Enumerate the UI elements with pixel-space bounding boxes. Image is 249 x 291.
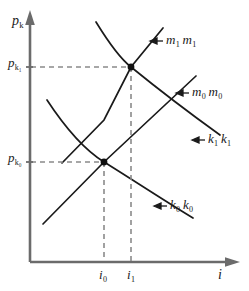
- curve-label-m1-m1-a-main: m: [166, 32, 175, 47]
- curve-label-k0-k0-a-sub: 0: [176, 205, 180, 214]
- arrow-head-k1-k1: [192, 137, 199, 143]
- curve-label-k1-k1-a-main: k: [208, 131, 214, 146]
- y-tick-pk1-main: p: [8, 55, 15, 70]
- curve-label-m0-m0-b-main: m: [209, 84, 218, 99]
- x-axis-arrowhead: [225, 257, 240, 267]
- curve-label-k1-k1-b-sub: 1: [227, 139, 231, 148]
- curve-m1-m1: [62, 28, 163, 163]
- curve-label-k0-k0-a-main: k: [170, 197, 176, 212]
- y-tick-pk0-sub: k₀: [15, 158, 22, 167]
- curve-label-m0-m0-b-sub: 0: [218, 92, 222, 101]
- curve-label-m0-m0-a-sub: 0: [201, 92, 205, 101]
- y-axis-label-sub: k: [19, 20, 24, 30]
- arrow-head-m0-m0: [176, 90, 183, 96]
- curve-k1-k1: [96, 22, 220, 135]
- economics-diagram: pk i pk₁ pk₀ i0 i1 m1m1 m0m0 k1k1 k0k0: [0, 0, 249, 291]
- curve-label-m0-m0: m0m0: [192, 85, 222, 98]
- arrow-head-k0-k0: [154, 203, 161, 209]
- x-axis-label: i: [218, 268, 222, 282]
- y-tick-pk1-sub: k₁: [15, 63, 22, 72]
- curve-label-m1-m1-a-sub: 1: [175, 40, 179, 49]
- curve-label-m0-m0-a-main: m: [192, 84, 201, 99]
- curve-label-m1-m1: m1m1: [166, 33, 196, 46]
- y-tick-label-pk1: pk₁: [8, 56, 22, 69]
- x-tick-i0-sub: 0: [103, 275, 107, 284]
- label-arrow-group: [150, 38, 205, 209]
- equilibrium-point-0: [101, 159, 108, 166]
- x-tick-label-i1: i1: [127, 268, 135, 281]
- curve-label-m1-m1-b-sub: 1: [192, 40, 196, 49]
- x-tick-label-i0: i0: [99, 268, 107, 281]
- y-tick-label-pk0: pk₀: [8, 151, 22, 164]
- y-axis-label: pk: [12, 14, 24, 28]
- x-axis-label-main: i: [218, 267, 222, 282]
- y-axis-label-main: p: [12, 13, 19, 28]
- y-axis-arrowhead: [25, 10, 35, 25]
- curve-label-k0-k0-b-main: k: [183, 197, 189, 212]
- curve-label-k1-k1-a-sub: 1: [214, 139, 218, 148]
- curve-label-k0-k0-b-sub: 0: [189, 205, 193, 214]
- curve-label-k1-k1-b-main: k: [221, 131, 227, 146]
- equilibrium-point-1: [128, 64, 135, 71]
- x-tick-i1-sub: 1: [131, 275, 135, 284]
- curve-label-k0-k0: k0k0: [170, 198, 193, 211]
- curve-label-m1-m1-b-main: m: [183, 32, 192, 47]
- curve-label-k1-k1: k1k1: [208, 132, 231, 145]
- y-tick-pk0-main: p: [8, 150, 15, 165]
